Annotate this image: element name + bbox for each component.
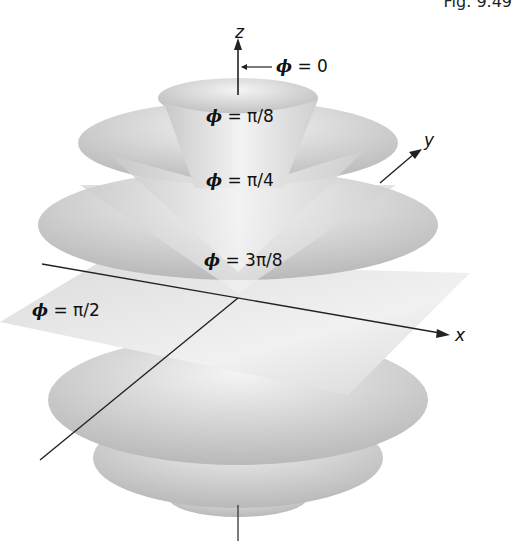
x-arrow-icon [436,329,450,338]
x-axis-label: x [455,325,465,345]
label-phi-3pi-8: ϕ = 3π/8 [204,250,283,270]
z-axis-label: z [235,22,244,42]
y-axis-label: y [424,130,434,150]
figure-label: Fig. 9.49 [444,0,512,11]
label-phi-pi-2: ϕ = π/2 [32,300,100,320]
phi0-arrow-icon [241,64,247,70]
label-phi-pi-4: ϕ = π/4 [206,170,274,190]
label-phi-0: ϕ = 0 [276,56,328,76]
spherical-coordinate-cones-diagram [0,0,512,551]
label-phi-pi-8: ϕ = π/8 [206,106,274,126]
